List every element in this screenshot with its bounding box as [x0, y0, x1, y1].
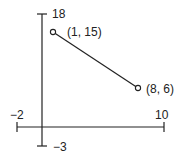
point-marker-2 [135, 85, 140, 90]
point-label-2: (8, 6) [146, 82, 174, 96]
line-segment [53, 32, 138, 88]
y-min-label: −3 [53, 140, 67, 154]
x-max-label: 10 [155, 108, 169, 122]
y-max-label: 18 [52, 7, 66, 21]
chart-canvas: 18 −3 −2 10 (1, 15) (8, 6) [0, 0, 181, 159]
x-min-label: −2 [10, 108, 24, 122]
point-marker-1 [50, 29, 55, 34]
point-label-1: (1, 15) [67, 25, 102, 39]
